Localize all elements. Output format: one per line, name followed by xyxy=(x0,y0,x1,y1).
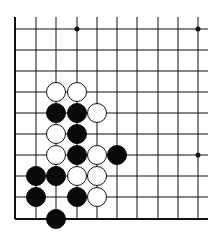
black-stone-icon[interactable] xyxy=(68,188,87,207)
star-point-icon xyxy=(196,153,201,158)
white-stone-icon[interactable] xyxy=(47,83,66,102)
white-stone-icon[interactable] xyxy=(47,125,66,144)
black-stone-icon[interactable] xyxy=(68,125,87,144)
black-stone-icon[interactable] xyxy=(47,210,66,229)
white-stone-icon[interactable] xyxy=(68,83,87,102)
black-stone-icon[interactable] xyxy=(108,146,127,165)
white-stone-icon[interactable] xyxy=(88,104,107,123)
white-stone-icon[interactable] xyxy=(88,167,107,186)
black-stone-icon[interactable] xyxy=(68,146,87,165)
black-stone-icon[interactable] xyxy=(27,167,46,186)
white-stone-icon[interactable] xyxy=(88,146,107,165)
white-stone-icon[interactable] xyxy=(47,146,66,165)
grid-lines xyxy=(15,17,208,219)
black-stone-icon[interactable] xyxy=(27,188,46,207)
star-point-icon xyxy=(75,27,80,32)
black-stone-icon[interactable] xyxy=(47,167,66,186)
white-stone-icon[interactable] xyxy=(88,188,107,207)
black-stone-icon[interactable] xyxy=(47,104,66,123)
go-board[interactable] xyxy=(0,0,223,245)
star-point-icon xyxy=(196,27,201,32)
black-stone-icon[interactable] xyxy=(68,104,87,123)
white-stone-icon[interactable] xyxy=(68,167,87,186)
